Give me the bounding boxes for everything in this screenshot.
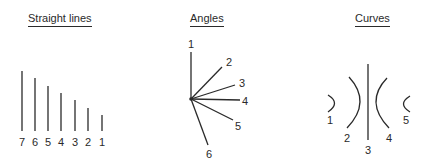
straight-label-2: 2 bbox=[85, 136, 91, 148]
angles-group bbox=[191, 52, 240, 145]
straight-label-6: 6 bbox=[32, 136, 38, 148]
angle-label-1: 1 bbox=[188, 38, 194, 50]
angle-label-5: 5 bbox=[235, 120, 241, 132]
angle-label-6: 6 bbox=[206, 148, 212, 160]
straight-label-3: 3 bbox=[72, 136, 78, 148]
straight-label-5: 5 bbox=[45, 136, 51, 148]
angle-label-4: 4 bbox=[242, 95, 248, 107]
angle-label-3: 3 bbox=[239, 77, 245, 89]
curve-label-1: 1 bbox=[327, 114, 333, 126]
angle-ray-4 bbox=[191, 99, 240, 100]
curve-5 bbox=[404, 96, 411, 112]
straight-label-4: 4 bbox=[58, 136, 64, 148]
straight-lines-labels: 7 6 5 4 3 2 1 bbox=[19, 136, 105, 148]
curve-label-2: 2 bbox=[344, 132, 350, 144]
angle-label-2: 2 bbox=[226, 56, 232, 68]
straight-label-1: 1 bbox=[99, 136, 105, 148]
curve-2 bbox=[347, 77, 360, 128]
diagram-canvas: 7 6 5 4 3 2 1 1 2 3 4 5 6 1 2 3 4 5 bbox=[0, 0, 428, 163]
angle-vertex bbox=[189, 97, 193, 101]
curve-1 bbox=[328, 95, 335, 112]
straight-lines-group bbox=[22, 71, 102, 131]
curve-label-4: 4 bbox=[386, 132, 392, 144]
curve-4 bbox=[376, 78, 389, 128]
straight-label-7: 7 bbox=[19, 136, 25, 148]
curve-label-5: 5 bbox=[403, 114, 409, 126]
curves-group bbox=[328, 64, 410, 140]
curve-label-3: 3 bbox=[365, 144, 371, 156]
